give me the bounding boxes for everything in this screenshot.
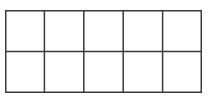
ten-frame-cell [123, 52, 162, 94]
ten-frame-cell [123, 10, 162, 52]
ten-frame-cell [84, 10, 123, 52]
diagram-canvas [0, 0, 215, 112]
grid-drawing [5, 10, 202, 93]
ten-frame-cell [5, 52, 44, 94]
ten-frame-cell [163, 10, 202, 52]
ten-frame-cell [84, 52, 123, 94]
ten-frame-cell [5, 10, 44, 52]
ten-frame-cell [44, 10, 83, 52]
ten-frame-cell [163, 52, 202, 94]
ten-frame-cell [44, 52, 83, 94]
ten-frame-grid [5, 10, 202, 93]
